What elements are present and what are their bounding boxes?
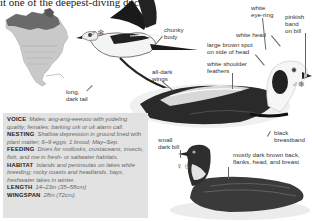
label-black-breastband: black breastband bbox=[274, 129, 305, 143]
range-map bbox=[2, 8, 78, 92]
info-row-wingspan: WINGSPAN28in (72cm) bbox=[7, 192, 145, 200]
label-white-shoulder: white shoulder feathers bbox=[207, 60, 247, 74]
info-key: FEEDING bbox=[7, 146, 35, 152]
leader-line-pinkish-band bbox=[305, 33, 306, 73]
label-mostly-dark-brown: mostly dark brown back, flanks, head, an… bbox=[233, 151, 300, 165]
info-key: WINGSPAN bbox=[7, 192, 41, 198]
info-row-length: LENGTH14–23in (35–58cm) bbox=[7, 184, 145, 192]
info-value: 14–23in (35–58cm) bbox=[35, 184, 86, 190]
info-key: NESTING bbox=[7, 131, 35, 137]
label-small-dark-bill: small dark bill bbox=[158, 136, 179, 150]
info-row-habitat: HABITATIslands and peninsulas on lakes w… bbox=[7, 162, 145, 185]
info-row-voice: VOICEMales: ang-ang-eeeooo with yodeling… bbox=[7, 116, 145, 131]
label-chunky-body: chunky body bbox=[164, 26, 184, 40]
leader-line-dark-brown bbox=[228, 167, 229, 179]
label-large-brown-spot: large brown spot on side of head bbox=[207, 41, 253, 55]
info-row-nesting: NESTINGShallow depression in ground line… bbox=[7, 131, 145, 146]
female-summer-symbol: ♀☼ bbox=[176, 162, 191, 171]
leader-line-small-bill bbox=[180, 150, 181, 158]
label-white-head: white head bbox=[236, 31, 266, 38]
info-row-feeding: FEEDINGDives for mollusks, crustaceans, … bbox=[7, 146, 145, 161]
label-all-dark-wings: all-dark wings bbox=[152, 68, 172, 82]
label-long-dark-tail: long, dark tail bbox=[66, 88, 88, 102]
leader-line-shoulder bbox=[232, 73, 233, 89]
male-winter-symbol-swim: ♂❄ bbox=[292, 80, 305, 89]
species-info-box: VOICEMales: ang-ang-eeeooo with yodeling… bbox=[3, 113, 148, 218]
info-key: HABITAT bbox=[7, 162, 33, 168]
label-pinkish-band: pinkish band on bill bbox=[285, 13, 304, 34]
label-white-eye-ring: white eye-ring bbox=[251, 4, 273, 18]
male-winter-symbol-flight: ♂❄ bbox=[90, 29, 105, 38]
info-key: LENGTH bbox=[7, 184, 32, 190]
info-key: VOICE bbox=[7, 116, 26, 122]
leader-line-white-head bbox=[271, 36, 280, 47]
info-value: 28in (72cm) bbox=[44, 192, 75, 198]
